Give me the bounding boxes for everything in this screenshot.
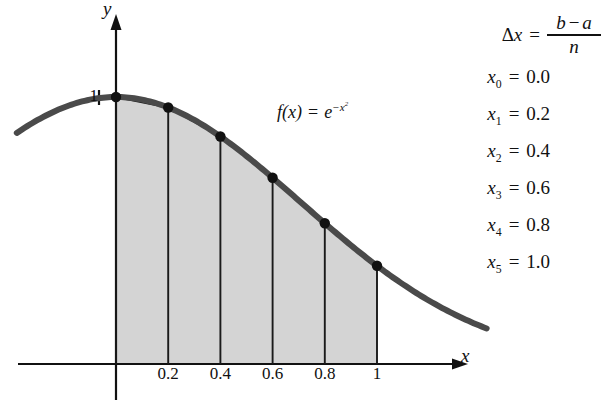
x-value-variable-2: x2 (468, 140, 502, 166)
x-value-list: x0=0.0x1=0.2x2=0.4x3=0.6x4=0.8x5=1.0 (425, 66, 615, 288)
numerator-b: b (556, 12, 566, 33)
delta-x-formula: Δx = b−a n (425, 4, 615, 66)
formula-panel: Δx = b−a n x0=0.0x1=0.2x2=0.4x3=0.6x4=0.… (425, 4, 615, 288)
function-exponent: −x2 (332, 101, 348, 113)
x-tick-label-1: 0.4 (197, 364, 243, 384)
x-value-row-5: x5=1.0 (425, 251, 615, 288)
x-value-number-0: 0.0 (526, 66, 572, 88)
fraction-denominator: n (569, 36, 579, 57)
x-value-row-4: x4=0.8 (425, 214, 615, 251)
x-value-number-4: 0.8 (526, 214, 572, 236)
function-label: f(x)=e−x2 (277, 100, 348, 123)
delta-symbol: Δ (502, 24, 514, 45)
x-value-number-1: 0.2 (526, 103, 572, 125)
numerator-minus: − (566, 12, 583, 33)
function-exponent-power: 2 (345, 100, 348, 107)
x-value-equals-2: = (502, 140, 527, 162)
curve-node-dot-x3 (267, 173, 277, 183)
x-value-row-2: x2=0.4 (425, 140, 615, 177)
x-tick-label-4: 1 (354, 364, 400, 384)
curve-node-dot-x1 (163, 102, 173, 112)
numerator-a: a (582, 12, 592, 33)
x-tick-label-2: 0.6 (250, 364, 296, 384)
x-value-row-0: x0=0.0 (425, 66, 615, 103)
curve-node-dot-x2 (215, 131, 225, 141)
x-value-variable-3: x3 (468, 177, 502, 203)
x-tick-label-3: 0.8 (302, 364, 348, 384)
function-name: f(x) (277, 102, 302, 122)
x-value-equals-3: = (502, 177, 527, 199)
y-axis-arrowhead (111, 14, 122, 30)
curve-node-dot-x5 (372, 261, 382, 271)
x-value-variable-0: x0 (468, 66, 502, 92)
x-value-equals-0: = (502, 66, 527, 88)
y-tick-label-1: 1 (84, 86, 98, 106)
delta-equals-sign: = (522, 24, 547, 46)
x-value-equals-1: = (502, 103, 527, 125)
x-value-number-5: 1.0 (526, 251, 572, 273)
delta-x-fraction: b−a n (547, 13, 601, 57)
x-value-equals-5: = (502, 251, 527, 273)
x-tick-label-0: 0.2 (145, 364, 191, 384)
x-value-variable-1: x1 (468, 103, 502, 129)
x-axis-label: x (461, 345, 469, 367)
delta-x-variable: x (514, 24, 522, 45)
function-exponent-base: −x (332, 101, 344, 113)
fraction-numerator: b−a (553, 13, 595, 34)
x-value-equals-4: = (502, 214, 527, 236)
function-equals: = (302, 102, 324, 122)
x-value-variable-5: x5 (468, 251, 502, 277)
x-value-row-3: x3=0.6 (425, 177, 615, 214)
x-value-row-1: x1=0.2 (425, 103, 615, 140)
x-value-variable-4: x4 (468, 214, 502, 240)
x-value-number-3: 0.6 (526, 177, 572, 199)
y-axis-label: y (103, 0, 111, 20)
delta-x-lhs: Δx (502, 24, 523, 46)
curve-node-dot-x0 (111, 92, 121, 102)
curve-node-dot-x4 (320, 218, 330, 228)
function-base: e (324, 102, 332, 122)
x-value-number-2: 0.4 (526, 140, 572, 162)
trapezoidal-rule-figure: y x 1 0.20.40.60.81 f(x)=e−x2 Δx = b−a n… (0, 0, 615, 400)
